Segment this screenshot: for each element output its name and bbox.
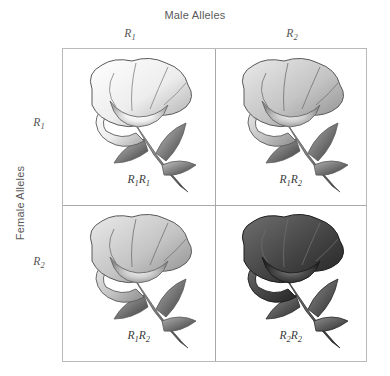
morning-glory-flower-dark bbox=[222, 209, 360, 351]
morning-glory-flower-white bbox=[70, 53, 208, 195]
row-allele-label-1: R2 bbox=[24, 255, 54, 270]
punnett-square-figure: Male Alleles Female Alleles R1 R2 R1 R2 bbox=[0, 0, 390, 376]
female-alleles-axis-title: Female Alleles bbox=[14, 138, 26, 268]
punnett-grid: R1R1 bbox=[62, 48, 367, 362]
punnett-cell-bottom-right: R2R2 bbox=[215, 205, 367, 361]
punnett-cell-top-right: R1R2 bbox=[215, 49, 367, 205]
morning-glory-flower-intermediate bbox=[70, 209, 208, 351]
punnett-cell-bottom-left: R1R2 bbox=[63, 205, 215, 361]
male-alleles-axis-title: Male Alleles bbox=[0, 9, 390, 21]
row-allele-label-0: R1 bbox=[24, 116, 54, 131]
column-allele-label-1: R2 bbox=[270, 27, 314, 42]
punnett-cell-top-left: R1R1 bbox=[63, 49, 215, 205]
morning-glory-flower-intermediate bbox=[222, 53, 360, 195]
column-allele-label-0: R1 bbox=[108, 27, 152, 42]
